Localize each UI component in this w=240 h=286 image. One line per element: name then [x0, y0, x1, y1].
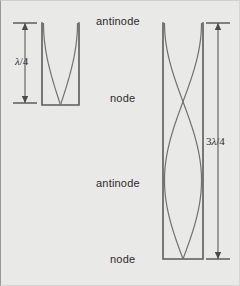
dimension-arrowhead-bottom: [215, 252, 221, 259]
standing-wave-figure: antinode node antinode node λ/4 3λ/4: [0, 0, 240, 286]
figure-canvas: [1, 1, 240, 286]
dim-suffix: /4: [216, 135, 225, 147]
pipe-left-outline: [42, 23, 79, 105]
quarter-wave-pipe: [42, 23, 79, 105]
pipe-left-wave-upper-envelope: [61, 23, 78, 105]
dimension-arrowhead-top: [215, 23, 221, 30]
wave-point-label-node-upper: node: [110, 92, 135, 104]
pipe-left-wave-lower-envelope: [44, 23, 61, 105]
three-quarter-wave-pipe: [163, 23, 203, 259]
dim-suffix: /4: [20, 55, 29, 67]
dimension-arrowhead-top: [22, 23, 28, 30]
wave-point-label-node-bottom: node: [110, 253, 135, 265]
dimension-arrowhead-bottom: [22, 96, 28, 103]
three-quarter-wavelength-label: 3λ/4: [206, 135, 225, 147]
wave-point-label-antinode-top: antinode: [96, 15, 140, 27]
wave-point-label-antinode-middle: antinode: [96, 177, 140, 189]
quarter-wavelength-label: λ/4: [15, 55, 28, 67]
